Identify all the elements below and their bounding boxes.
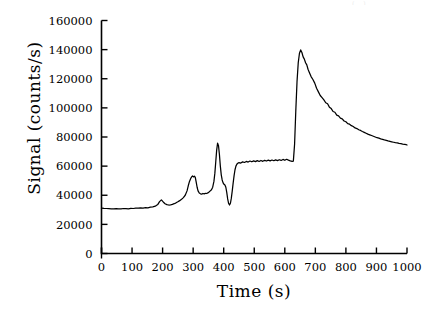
x-tick-label: 800 [335,260,357,274]
figure-root: ( ) 020000400006000080000100000120000140… [0,0,429,314]
x-tick-label: 200 [152,260,174,274]
y-tick-label: 60000 [56,159,93,173]
axis-lines [102,21,408,254]
y-axis-title: Signal (counts/s) [24,0,44,238]
y-tick-label: 140000 [49,43,93,57]
y-tick-label: 160000 [49,14,93,28]
y-tick-label: 40000 [56,188,93,202]
data-series-group [102,50,408,209]
y-tick-label: 120000 [49,72,93,86]
line-chart: 0200004000060000800001000001200001400001… [0,0,429,314]
x-tick-label: 900 [365,260,387,274]
axes-group: 0200004000060000800001000001200001400001… [49,14,422,274]
x-tick-label: 500 [243,260,265,274]
x-tick-label: 1000 [392,260,421,274]
chart-plot-area: 0200004000060000800001000001200001400001… [0,0,429,314]
x-tick-label: 400 [213,260,235,274]
y-tick-label: 80000 [56,130,93,144]
y-tick-label: 100000 [49,101,93,115]
x-tick-label: 600 [274,260,296,274]
y-tick-label: 0 [85,247,92,261]
x-tick-label: 100 [121,260,143,274]
data-series-line [102,50,408,209]
x-axis-title: Time (s) [101,281,407,301]
x-tick-label: 300 [182,260,204,274]
x-tick-label: 700 [304,260,326,274]
x-tick-label: 0 [98,260,105,274]
y-tick-label: 20000 [56,218,93,232]
